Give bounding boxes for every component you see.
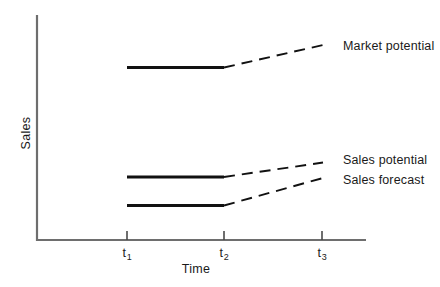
series-label-sales-potential: Sales potential bbox=[343, 153, 427, 167]
y-axis-title: Sales bbox=[19, 115, 33, 151]
series-market-potential-dashed-segment bbox=[224, 45, 323, 68]
series-sales-forecast-dashed-segment bbox=[224, 178, 323, 206]
series-label-market-potential: Market potential bbox=[343, 39, 434, 53]
chart-figure: t1 t2 t3 Time Sales Market potential Sal… bbox=[0, 0, 440, 287]
series-label-sales-forecast: Sales forecast bbox=[343, 173, 424, 187]
x-tick-label-t2: t2 bbox=[220, 246, 229, 260]
x-axis-title: Time bbox=[182, 262, 211, 276]
x-tick-label-t3: t3 bbox=[318, 246, 327, 260]
series-sales-potential-dashed-segment bbox=[224, 163, 323, 178]
x-tick-label-t3-subscript: 3 bbox=[322, 252, 327, 262]
x-tick-label-t2-subscript: 2 bbox=[224, 252, 229, 262]
x-tick-label-t1: t1 bbox=[123, 246, 132, 260]
x-tick-label-t1-subscript: 1 bbox=[127, 252, 132, 262]
